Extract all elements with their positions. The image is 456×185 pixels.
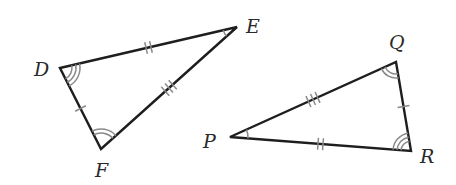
vertex-label-d: D (33, 58, 49, 80)
angle-arc (223, 30, 226, 36)
angle-arc (246, 130, 248, 139)
tick-mark (318, 138, 319, 150)
vertex-label-q: Q (389, 31, 405, 53)
vertex-label-r: R (419, 145, 434, 167)
side-qr-tick-marks (398, 106, 410, 108)
angle-arc (401, 141, 409, 150)
congruent-triangles-diagram: DEF PQR (0, 0, 456, 185)
angle-r-angle-arcs (393, 133, 409, 150)
vertex-label-e: E (245, 15, 260, 37)
vertex-label-p: P (202, 130, 217, 152)
vertex-label-f: F (94, 159, 109, 181)
triangle-pqr-outline (230, 62, 411, 151)
angle-e-angle-arcs (223, 30, 226, 36)
triangle-def: DEF (33, 15, 260, 181)
triangle-pqr: PQR (202, 31, 434, 167)
angle-arc (94, 133, 113, 138)
angle-arc (397, 137, 409, 150)
tick-mark (323, 138, 324, 150)
tick-mark (398, 106, 410, 108)
angle-p-angle-arcs (246, 130, 248, 139)
side-pq-tick-marks (306, 92, 320, 107)
